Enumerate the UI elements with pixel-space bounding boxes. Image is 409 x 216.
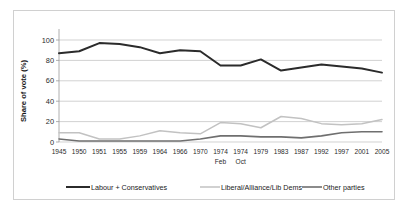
chart-frame: 020406080100 Share of vote (%) 194519501… xyxy=(13,10,395,200)
x-tick-label: 1959 xyxy=(132,148,147,155)
chart-series-lines xyxy=(59,43,382,141)
x-sub-label: Feb xyxy=(215,158,227,165)
legend-label-1: Liberal/Alliance/Lib Dems xyxy=(221,183,303,192)
chart-axes xyxy=(56,29,59,142)
x-tick-label: 1964 xyxy=(153,148,168,155)
x-tick-label: 1966 xyxy=(173,148,188,155)
line-chart: 020406080100 Share of vote (%) 194519501… xyxy=(14,11,394,199)
x-tick-label: 1979 xyxy=(254,148,269,155)
legend-label-0: Labour + Conservatives xyxy=(91,183,168,192)
y-tick-label: 0 xyxy=(50,138,54,147)
x-tick-label: 1950 xyxy=(72,148,87,155)
y-tick-label: 60 xyxy=(46,76,54,85)
x-sub-label: Oct xyxy=(236,158,246,165)
x-tick-label: 1992 xyxy=(314,148,329,155)
y-axis-title: Share of vote (%) xyxy=(19,60,28,122)
x-tick-label: 1970 xyxy=(193,148,208,155)
x-tick-label: 1955 xyxy=(112,148,127,155)
y-tick-label: 100 xyxy=(42,36,54,45)
x-tick-label: 1974 xyxy=(233,148,248,155)
y-tick-label: 40 xyxy=(46,97,54,106)
x-tick-label: 2005 xyxy=(375,148,390,155)
x-tick-label: 2001 xyxy=(354,148,369,155)
chart-y-axis-title: Share of vote (%) xyxy=(19,60,28,122)
chart-legend: Labour + ConservativesLiberal/Alliance/L… xyxy=(66,183,365,192)
chart-gridlines xyxy=(59,40,382,142)
x-tick-label: 1987 xyxy=(294,148,309,155)
x-tick-label: 1997 xyxy=(334,148,349,155)
x-tick-label: 1945 xyxy=(52,148,67,155)
x-tick-label: 1951 xyxy=(92,148,107,155)
y-tick-label: 20 xyxy=(46,117,54,126)
chart-x-tick-labels: 194519501951195519591964196619701974Feb1… xyxy=(52,148,390,165)
x-tick-label: 1983 xyxy=(274,148,289,155)
series-line-0 xyxy=(59,43,382,73)
chart-y-tick-labels: 020406080100 xyxy=(42,36,54,147)
legend-label-2: Other parties xyxy=(323,183,365,192)
y-tick-label: 80 xyxy=(46,56,54,65)
x-tick-label: 1974 xyxy=(213,148,228,155)
